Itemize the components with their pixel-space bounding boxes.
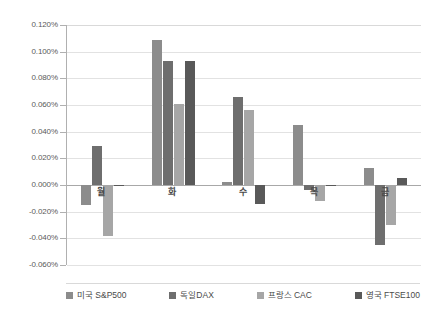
bar-group <box>138 25 209 265</box>
x-axis-category-label: 금 <box>349 187 420 197</box>
bar <box>185 61 195 185</box>
x-axis-category-label: 화 <box>137 187 208 197</box>
legend-item[interactable]: 프랑스 CAC <box>257 291 312 300</box>
y-axis-tick-label: -0.060% <box>2 261 58 269</box>
bar <box>244 110 254 185</box>
bar <box>293 125 303 185</box>
y-axis-tick-label: 0.000% <box>2 181 58 189</box>
y-axis-tick-mark <box>60 265 66 266</box>
y-axis-tick-label: 0.040% <box>2 128 58 136</box>
bar-group <box>279 25 350 265</box>
legend-label: 미국 S&P500 <box>77 291 127 300</box>
y-axis-tick-label: 0.080% <box>2 74 58 82</box>
y-axis-tick-label: 0.020% <box>2 154 58 162</box>
gridline <box>67 265 421 266</box>
bar-group <box>350 25 421 265</box>
bar <box>174 104 184 185</box>
y-axis-tick-label: -0.040% <box>2 234 58 242</box>
bar <box>163 61 173 185</box>
y-axis-tick-label: -0.020% <box>2 208 58 216</box>
bar-group <box>67 25 138 265</box>
legend-item[interactable]: 독일DAX <box>169 291 213 300</box>
legend-swatch-icon <box>257 292 264 299</box>
x-axis-category-label: 목 <box>278 187 349 197</box>
bar-group <box>209 25 280 265</box>
legend-label: 프랑스 CAC <box>268 291 312 300</box>
legend-swatch-icon <box>66 292 73 299</box>
bar <box>233 97 243 185</box>
x-axis-category-label: 수 <box>208 187 279 197</box>
bar <box>152 40 162 185</box>
y-axis-tick-label: 0.120% <box>2 21 58 29</box>
legend-label: 영국 FTSE100 <box>366 291 420 300</box>
plot-area <box>66 25 420 265</box>
legend-label: 독일DAX <box>180 291 213 300</box>
legend-swatch-icon <box>355 292 362 299</box>
chart-legend: 미국 S&P500독일DAX프랑스 CAC영국 FTSE100 <box>66 283 420 303</box>
bar <box>397 178 407 185</box>
bar <box>92 146 102 185</box>
legend-item[interactable]: 영국 FTSE100 <box>355 291 420 300</box>
y-axis-tick-label: 0.100% <box>2 48 58 56</box>
bar-chart: 0.120%0.100%0.080%0.060%0.040%0.020%0.00… <box>0 0 429 316</box>
bar <box>222 182 232 185</box>
x-axis-category-label: 월 <box>66 187 137 197</box>
y-axis-tick-label: 0.060% <box>2 101 58 109</box>
bar <box>364 168 374 185</box>
legend-item[interactable]: 미국 S&P500 <box>66 291 127 300</box>
legend-swatch-icon <box>169 292 176 299</box>
